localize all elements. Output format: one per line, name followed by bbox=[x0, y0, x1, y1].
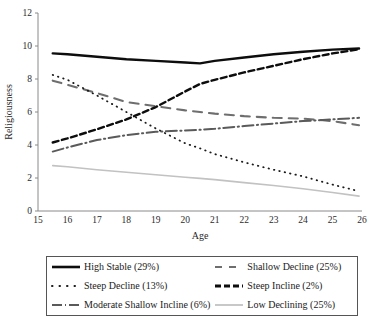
legend-item-steep-incline: Steep Incline (2%) bbox=[212, 280, 355, 292]
svg-text:18: 18 bbox=[122, 215, 132, 225]
series-line bbox=[53, 48, 359, 63]
series-line bbox=[53, 118, 359, 152]
series-line bbox=[53, 166, 359, 197]
plot-area: 024681012151617181920212223242526AgeReli… bbox=[0, 0, 372, 248]
svg-text:21: 21 bbox=[210, 215, 220, 225]
legend-label-steep-decline: Steep Decline (13%) bbox=[84, 281, 167, 291]
legend-item-high-stable: High Stable (29%) bbox=[49, 261, 212, 273]
heavy-dash-swatch bbox=[214, 280, 244, 292]
dotted-swatch bbox=[51, 280, 81, 292]
legend-label-high-stable: High Stable (29%) bbox=[84, 262, 159, 272]
svg-text:20: 20 bbox=[181, 215, 191, 225]
svg-text:Age: Age bbox=[192, 230, 209, 241]
legend-label-low-declining: Low Declining (25%) bbox=[247, 300, 335, 310]
svg-text:22: 22 bbox=[239, 215, 249, 225]
legend-label-steep-incline: Steep Incline (2%) bbox=[247, 281, 322, 291]
line-chart: 024681012151617181920212223242526AgeReli… bbox=[0, 0, 372, 248]
svg-text:6: 6 bbox=[27, 107, 32, 117]
svg-text:24: 24 bbox=[298, 215, 308, 225]
series-line bbox=[53, 75, 359, 191]
chart-legend: High Stable (29%) Shallow Decline (25%) … bbox=[46, 256, 358, 316]
svg-text:Religiousness: Religiousness bbox=[3, 84, 14, 140]
svg-text:19: 19 bbox=[151, 215, 161, 225]
legend-label-moderate-shallow-incline: Moderate Shallow Incline (6%) bbox=[84, 300, 210, 310]
svg-text:15: 15 bbox=[33, 215, 43, 225]
svg-text:0: 0 bbox=[27, 206, 32, 216]
svg-text:17: 17 bbox=[92, 215, 102, 225]
svg-text:23: 23 bbox=[269, 215, 279, 225]
legend-item-moderate-shallow-incline: Moderate Shallow Incline (6%) bbox=[49, 299, 212, 311]
svg-text:10: 10 bbox=[23, 41, 33, 51]
long-dash-swatch bbox=[214, 261, 244, 273]
axis-labels: 024681012151617181920212223242526AgeReli… bbox=[3, 8, 367, 241]
series-layer bbox=[53, 48, 359, 196]
series-line bbox=[53, 81, 359, 126]
svg-text:8: 8 bbox=[27, 74, 32, 84]
thin-solid-swatch bbox=[214, 299, 244, 311]
legend-label-shallow-decline: Shallow Decline (25%) bbox=[247, 262, 341, 272]
svg-text:26: 26 bbox=[357, 215, 367, 225]
svg-text:4: 4 bbox=[27, 140, 32, 150]
legend-item-low-declining: Low Declining (25%) bbox=[212, 299, 355, 311]
figure-container: 024681012151617181920212223242526AgeReli… bbox=[0, 0, 372, 324]
legend-item-shallow-decline: Shallow Decline (25%) bbox=[212, 261, 355, 273]
svg-text:12: 12 bbox=[23, 8, 33, 18]
dash-dot-swatch bbox=[51, 299, 81, 311]
legend-item-steep-decline: Steep Decline (13%) bbox=[49, 280, 212, 292]
solid-thick-swatch bbox=[51, 261, 81, 273]
svg-text:16: 16 bbox=[63, 215, 73, 225]
svg-text:25: 25 bbox=[328, 215, 338, 225]
svg-text:2: 2 bbox=[27, 173, 32, 183]
